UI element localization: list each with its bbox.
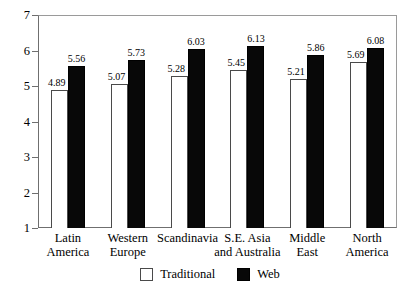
y-axis-tick-label: 4	[6, 115, 30, 128]
bar-value-label-traditional: 5.21	[287, 67, 305, 77]
y-axis-tick-label: 6	[6, 44, 30, 57]
y-axis-tick-label: 7	[6, 9, 30, 22]
bar-web	[307, 55, 324, 228]
bar-value-label-traditional: 5.07	[108, 72, 126, 82]
bar-web	[68, 66, 85, 228]
bar-value-label-web: 5.73	[122, 48, 151, 58]
x-axis-labels: LatinAmericaWesternEuropeScandinaviaS.E.…	[38, 231, 397, 265]
bar-chart: 1234567 4.895.565.075.735.286.035.456.13…	[0, 0, 420, 300]
x-axis-category-label-line: America	[329, 245, 405, 259]
y-axis-tick-mark	[32, 228, 38, 229]
legend-label: Traditional	[160, 268, 215, 281]
y-axis-tick-label: 5	[6, 80, 30, 93]
bar-traditional	[290, 79, 307, 228]
bar-value-label-traditional: 5.69	[347, 50, 365, 60]
bar-traditional	[350, 62, 367, 228]
bars-layer: 4.895.565.075.735.286.035.456.135.215.86…	[38, 15, 397, 228]
bar-value-label-traditional: 4.89	[48, 78, 66, 88]
chart-legend: TraditionalWeb	[0, 268, 420, 281]
legend-item-traditional[interactable]: Traditional	[140, 268, 215, 281]
open-square-swatch	[140, 268, 153, 281]
bar-value-label-traditional: 5.45	[227, 58, 245, 68]
bar-value-label-web: 6.03	[182, 37, 211, 47]
bar-value-label-web: 6.13	[241, 34, 270, 44]
x-axis-category-label-line: North	[329, 231, 405, 245]
bar-web	[247, 46, 264, 228]
bar-value-label-traditional: 5.28	[168, 64, 186, 74]
bar-traditional	[171, 76, 188, 228]
y-axis-tick-label: 3	[6, 151, 30, 164]
bar-traditional	[111, 84, 128, 228]
bar-value-label-web: 6.08	[361, 36, 390, 46]
bar-traditional	[230, 70, 247, 228]
x-axis-category-label: NorthAmerica	[329, 231, 405, 259]
legend-label: Web	[257, 268, 280, 281]
bar-web	[367, 48, 384, 228]
y-axis-tick-label: 1	[6, 222, 30, 235]
x-axis-category-label-line: Europe	[90, 245, 166, 259]
bar-value-label-web: 5.86	[301, 43, 330, 53]
bar-traditional	[51, 90, 68, 228]
bar-value-label-web: 5.56	[62, 54, 91, 64]
legend-item-web[interactable]: Web	[237, 268, 280, 281]
bar-web	[188, 49, 205, 228]
bar-web	[128, 60, 145, 228]
y-axis-tick-label: 2	[6, 186, 30, 199]
filled-square-swatch	[237, 268, 250, 281]
